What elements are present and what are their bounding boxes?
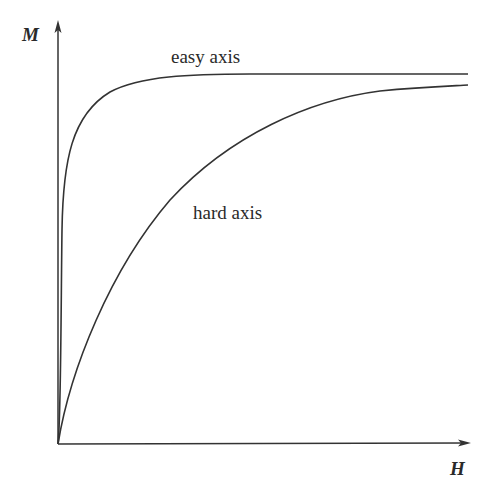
x-axis bbox=[58, 443, 464, 444]
magnetization-chart: M H easy axis hard axis bbox=[0, 0, 499, 499]
x-axis-label: H bbox=[449, 458, 466, 479]
easy-axis-label: easy axis bbox=[171, 46, 240, 67]
hard-axis-curve bbox=[58, 85, 468, 444]
y-axis-label: M bbox=[21, 24, 40, 45]
hard-axis-label: hard axis bbox=[193, 202, 262, 223]
